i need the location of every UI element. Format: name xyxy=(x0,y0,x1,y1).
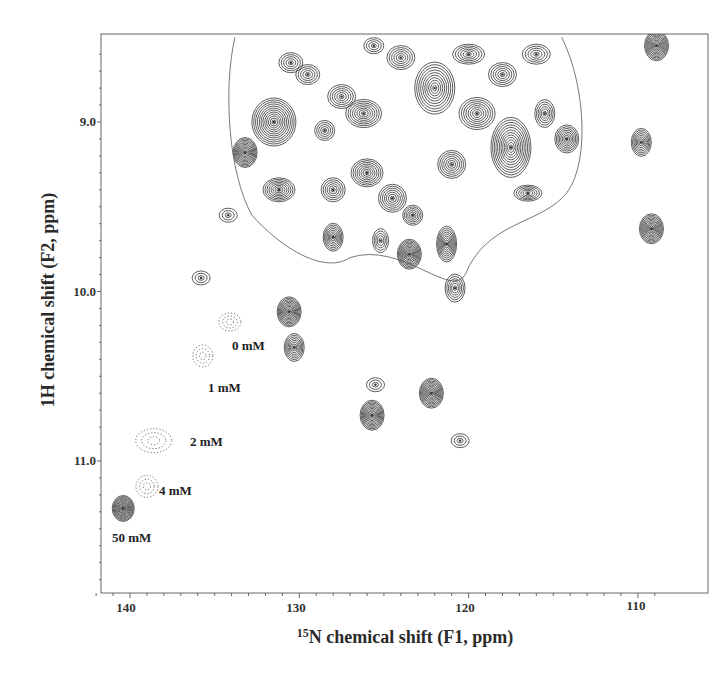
x-axis-ticks xyxy=(96,593,655,598)
x-axis-title-text: N chemical shift (F1, ppm) xyxy=(309,627,513,648)
isolated-peak xyxy=(451,434,469,448)
x-tick-label-120: 120 xyxy=(455,600,475,615)
x-tick-label-110: 110 xyxy=(627,598,646,613)
y-tick-label-11: 11.0 xyxy=(74,453,96,468)
concentration-label-4mm: 4 mM xyxy=(159,483,192,498)
x-axis-title-superscript: 15 xyxy=(297,626,309,640)
crowded-peak xyxy=(378,184,406,212)
x-tick-label-140: 140 xyxy=(116,600,136,615)
isolated-peak xyxy=(192,271,210,285)
isolated-peak xyxy=(219,208,237,222)
x-tick-label-130: 130 xyxy=(286,600,306,615)
y-axis-title: 1H chemical shift (F2, ppm) xyxy=(38,193,59,407)
isolated-peak xyxy=(366,378,384,392)
concentration-label-1mm: 1 mM xyxy=(208,380,241,395)
x-axis-title: 15N chemical shift (F1, ppm) xyxy=(297,626,513,648)
crowded-peak xyxy=(403,205,423,225)
concentration-label-2mm: 2 mM xyxy=(190,434,223,449)
y-tick-label-9: 9.0 xyxy=(80,114,96,129)
concentration-label-50mm: 50 mM xyxy=(112,530,151,545)
crowded-peak xyxy=(415,62,455,114)
y-tick-label-10: 10.0 xyxy=(73,284,96,299)
crowded-peak xyxy=(321,178,345,202)
isolated-peak xyxy=(417,595,435,609)
hsqc-spectrum-chart: 9.0 10.0 11.0 140 130 120 110 15N chemic… xyxy=(0,0,714,674)
y-axis-ticks xyxy=(97,54,101,579)
plot-frame xyxy=(101,34,708,593)
concentration-label-0mm: 0 mM xyxy=(232,338,265,353)
crowded-peak xyxy=(438,150,466,178)
